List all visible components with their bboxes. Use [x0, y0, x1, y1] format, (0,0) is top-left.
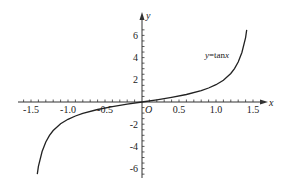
y-axis-arrow-icon	[140, 12, 145, 20]
y-tick-label: 4	[133, 52, 138, 63]
x-axis-arrow-icon	[260, 100, 268, 105]
y-tick-label: 6	[133, 30, 138, 41]
x-tick-label: -1.5	[23, 104, 39, 115]
x-tick-label: 0.5	[173, 104, 186, 115]
x-tick-label: 1.0	[210, 104, 223, 115]
y-axis-label: y	[145, 10, 151, 21]
curve-label: y=tanx	[204, 50, 229, 60]
y-tick-label: -6	[130, 163, 138, 174]
y-tick-label: 2	[133, 74, 138, 85]
y-tick-label: -4	[130, 141, 138, 152]
x-axis-label: x	[268, 97, 274, 108]
y-tick-label: -2	[130, 119, 138, 130]
origin-label: O	[145, 104, 152, 115]
axes	[18, 12, 268, 178]
tangent-chart: -1.5-1.0-0.50.51.01.5-6-4-2246 y=tanx x …	[0, 0, 281, 192]
x-tick-label: 1.5	[247, 104, 260, 115]
x-tick-label: -1.0	[60, 104, 76, 115]
